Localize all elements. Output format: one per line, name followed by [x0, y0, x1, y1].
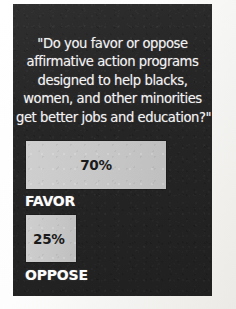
poll-question-line-3: designed to help blacks, — [16, 72, 209, 90]
poll-question-line-5: get better jobs and education?" — [16, 109, 209, 127]
bar-label-oppose: OPPOSE — [25, 267, 88, 283]
poll-question-line-2: affirmative action programs — [16, 53, 209, 71]
poll-question-line-4: women, and other minorities — [16, 90, 209, 108]
bar-value-oppose: 25% — [33, 231, 83, 247]
poll-result-poster: "Do you favor or oppose affirmative acti… — [13, 4, 212, 296]
bar-label-favor: FAVOR — [25, 193, 75, 209]
poll-question: "Do you favor or oppose affirmative acti… — [16, 35, 209, 127]
bar-value-favor: 70% — [26, 157, 166, 173]
poll-question-line-1: "Do you favor or oppose — [16, 35, 209, 53]
poster-content: "Do you favor or oppose affirmative acti… — [13, 4, 212, 296]
